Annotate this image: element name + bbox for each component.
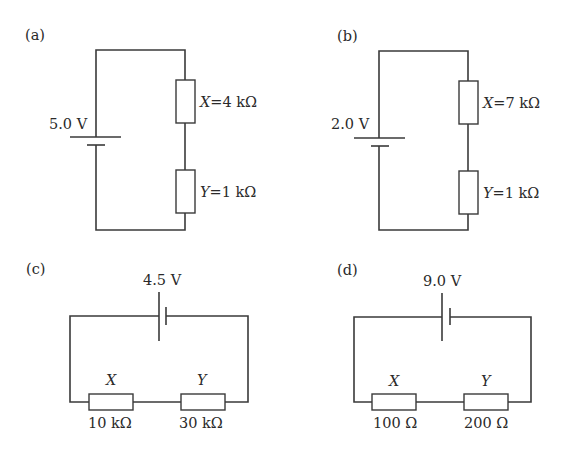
circuit-d-y-value: 200 Ω — [464, 416, 508, 431]
circuit-c-x-label: X — [106, 373, 116, 388]
resistor-b-x — [459, 81, 478, 124]
resistor-a-y — [176, 170, 195, 213]
circuit-c — [70, 292, 248, 410]
circuit-c-y-value: 30 kΩ — [179, 416, 223, 431]
circuit-a-voltage: 5.0 V — [49, 117, 87, 132]
circuit-c-label: (c) — [26, 262, 45, 277]
circuit-d — [354, 293, 531, 410]
resistor-d-x — [372, 394, 416, 410]
circuit-a — [70, 50, 195, 230]
circuit-b — [354, 51, 478, 230]
resistor-d-y — [464, 394, 508, 410]
circuit-b-y-label: Y=1 kΩ — [483, 186, 539, 201]
circuit-a-x-label: X=4 kΩ — [200, 95, 257, 110]
circuit-d-x-label: X — [389, 374, 399, 389]
circuit-b-x-label: X=7 kΩ — [483, 96, 540, 111]
circuit-d-label: (d) — [337, 263, 358, 278]
circuit-a-label: (a) — [25, 28, 45, 43]
circuit-d-y-label: Y — [481, 374, 491, 389]
circuit-c-voltage: 4.5 V — [143, 273, 181, 288]
resistor-c-x — [89, 394, 133, 410]
resistor-c-y — [181, 394, 225, 410]
circuit-b-label: (b) — [337, 29, 358, 44]
resistor-a-x — [176, 80, 195, 123]
circuit-c-y-label: Y — [197, 373, 207, 388]
circuit-d-voltage: 9.0 V — [423, 274, 461, 289]
circuit-a-y-label: Y=1 kΩ — [200, 185, 256, 200]
circuit-diagrams — [0, 0, 573, 460]
resistor-b-y — [459, 171, 478, 214]
circuit-d-x-value: 100 Ω — [373, 416, 417, 431]
circuit-c-x-value: 10 kΩ — [88, 416, 132, 431]
circuit-b-voltage: 2.0 V — [331, 117, 369, 132]
